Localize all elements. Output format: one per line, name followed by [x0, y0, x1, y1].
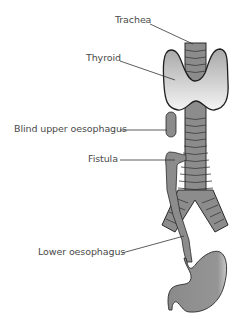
label-fistula: Fistula [88, 153, 118, 164]
label-lower-oesophagus: Lower oesophagus [38, 246, 125, 257]
label-blind-upper-oesophagus: Blind upper oesophagus [14, 123, 127, 134]
diagram-canvas [0, 0, 246, 325]
blind-upper-oesophagus-shape [166, 112, 176, 137]
label-thyroid: Thyroid [86, 52, 121, 63]
stomach-shape [168, 251, 227, 312]
label-trachea: Trachea [115, 14, 151, 25]
